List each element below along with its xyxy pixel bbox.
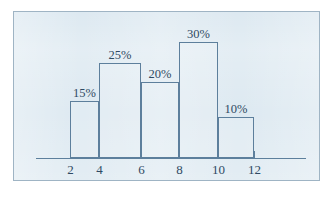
histogram-bar [71,102,99,158]
x-tick-label: 2 [67,162,74,177]
chart-panel: 2 4 6 8 10 12 15% 25% 20% 30% 10% [13,11,320,181]
bar-value-label: 25% [109,48,132,62]
bar-value-label: 30% [187,27,210,41]
x-tick-label: 6 [138,162,145,177]
histogram-bar [100,64,141,158]
histogram-bar [180,43,218,158]
bar-value-label: 15% [73,86,96,100]
x-tick-label: 12 [248,162,261,177]
histogram-bar [219,118,254,158]
x-tick-label: 4 [96,162,103,177]
figure-root: 2 4 6 8 10 12 15% 25% 20% 30% 10% [0,0,334,197]
bar-value-label: 10% [225,102,248,116]
histogram-plot: 2 4 6 8 10 12 15% 25% 20% 30% 10% [14,12,320,181]
histogram-bar [142,83,179,158]
x-tick-label: 8 [176,162,183,177]
x-tick-label: 10 [212,162,225,177]
bar-value-label: 20% [149,67,172,81]
